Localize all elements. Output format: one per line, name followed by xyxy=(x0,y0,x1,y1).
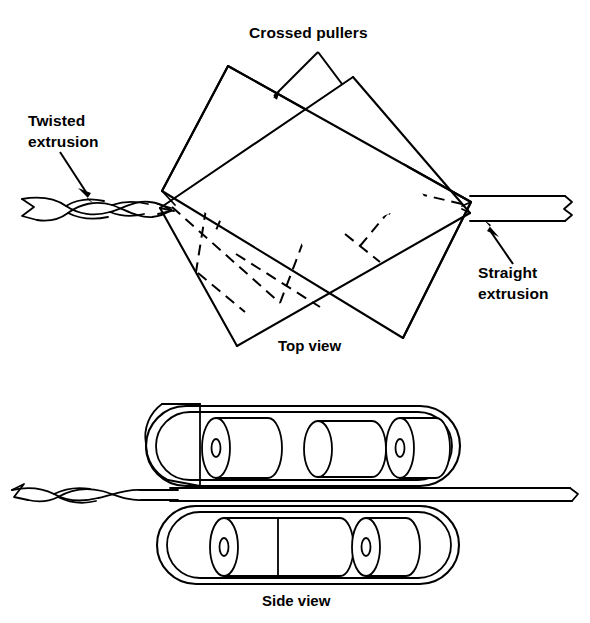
crossed-pullers-label: Crossed pullers xyxy=(249,24,368,41)
upper-roller-3 xyxy=(386,418,450,478)
lower-roller-2 xyxy=(352,518,420,576)
lower-roller-mid xyxy=(278,518,353,576)
top-view-caption: Top view xyxy=(278,337,341,354)
technical-diagram-canvas: Crossed pullers Twisted extrusion Straig… xyxy=(0,0,590,623)
twisted-extrusion-label-line1: Twisted xyxy=(28,112,85,129)
twisted-extrusion-label-line2: extrusion xyxy=(28,133,99,150)
upper-belt-assembly[interactable] xyxy=(145,404,460,486)
upper-roller-1 xyxy=(202,418,282,478)
lower-belt-assembly[interactable] xyxy=(157,506,459,584)
side-view-caption: Side view xyxy=(262,592,331,609)
straight-extrusion-leader xyxy=(484,220,513,264)
figure-root: Crossed pullers Twisted extrusion Straig… xyxy=(0,0,590,623)
upper-roller-2 xyxy=(304,421,386,477)
twisted-extrusion-leader xyxy=(60,152,94,204)
twisted-extrusion-strand xyxy=(22,198,171,221)
straight-extrusion-bar xyxy=(470,196,572,221)
straight-extrusion-label-line1: Straight xyxy=(478,264,537,281)
straight-extrusion-label-line2: extrusion xyxy=(478,285,549,302)
